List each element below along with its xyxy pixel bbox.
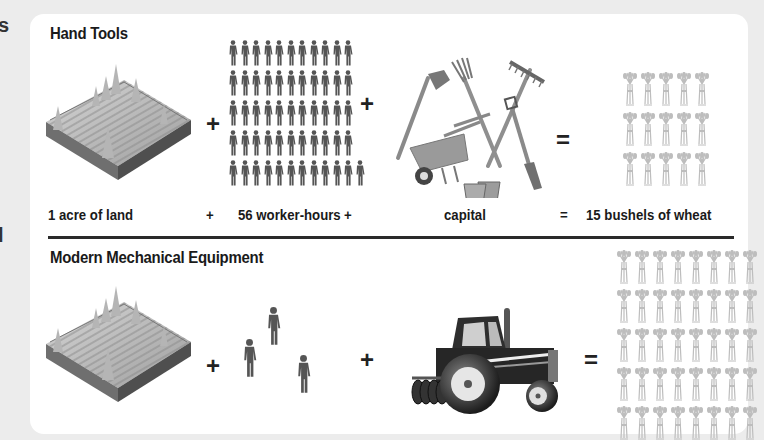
worker-figure-icon [309,160,321,186]
worker-figure-icon [332,100,344,126]
worker-figure-icon [263,160,275,186]
buckets-icon [464,182,500,198]
wheat-bundle-icon [670,328,688,362]
wheat-bundle-icon [652,367,670,401]
worker-figure-icon [343,40,355,66]
wheat-bundle-icon [724,328,742,362]
modern-equipment-title: Modern Mechanical Equipment [50,248,263,268]
land-plot-icon [46,54,191,184]
wheat-bundle-icon [724,289,742,323]
wheat-bundle-icon [688,367,706,401]
wheat-bundle-icon [652,289,670,323]
worker-figure-icon [266,306,281,346]
wheat-bundle-icon [706,328,724,362]
worker-figure-icon [228,70,240,96]
worker-figure-icon [251,40,263,66]
wheat-bundle-icon [742,289,760,323]
worker-figure-icon [274,70,286,96]
wheat-bundle-icon [616,367,634,401]
wheat-bundle-icon [706,250,724,284]
worker-figure-icon [240,70,252,96]
plus-operator: + [206,354,220,378]
worker-figure-icon [320,70,332,96]
plus-operator: + [360,92,374,116]
wheat-bundle-icon [706,406,724,440]
worker-figure-icon [263,70,275,96]
worker-figure-icon [296,354,311,394]
wheat-bundle-icon [652,250,670,284]
wheat-bundle-icon [640,152,658,186]
worker-figure-icon [309,130,321,156]
plus-caption: + [206,206,214,223]
wheat-bundle-icon [694,152,712,186]
wheat-bundle-icon [616,328,634,362]
wheat-bundle-icon [634,289,652,323]
diagram-card: Hand Tools [30,14,748,434]
wheat-bundle-icon [706,289,724,323]
worker-figure-icon [297,160,309,186]
worker-figure-icon [343,100,355,126]
worker-figure-icon [309,70,321,96]
wheat-bundle-icon [670,250,688,284]
worker-figure-icon [251,100,263,126]
worker-figure-icon [263,40,275,66]
wheat-bundle-icon [676,152,694,186]
cropped-edge-text: s [0,14,9,37]
equals-caption: = [560,206,568,223]
worker-figure-icon [274,100,286,126]
wheat-bundle-icon [688,328,706,362]
plus-operator: + [206,112,220,136]
worker-figure-icon [251,70,263,96]
worker-figure-icon [309,100,321,126]
worker-figure-icon [251,160,263,186]
wheat-bundle-icon [676,112,694,146]
worker-figure-icon [251,130,263,156]
wheat-bundle-icon [634,367,652,401]
wheat-bundle-icon [616,289,634,323]
wheat-bundle-icon [634,250,652,284]
hand-tools-title: Hand Tools [50,24,128,44]
wheat-bundle-icon [658,72,676,106]
worker-figure-icon [332,160,344,186]
worker-figure-icon [274,130,286,156]
worker-figure-icon [320,130,332,156]
worker-figure-icon [332,130,344,156]
wheat-bundle-icon [706,367,724,401]
wheat-bundle-icon [658,152,676,186]
worker-figure-icon [320,100,332,126]
wheat-bundle-icon [688,289,706,323]
worker-figure-icon [286,100,298,126]
land-plot-icon [46,276,191,406]
wheat-bundle-icon [652,406,670,440]
wheat-bundle-icon [670,406,688,440]
worker-figure-icon [286,130,298,156]
wheat-bundle-icon [676,72,694,106]
wheat-bundle-icon [616,250,634,284]
wheat-bundles [616,250,760,440]
wheat-bundle-icon [742,328,760,362]
labor-caption: 56 worker-hours [238,206,341,223]
worker-figure-icon [286,70,298,96]
plus-operator: + [360,348,374,372]
wheat-bundle-icon [640,112,658,146]
rake-icon [488,62,544,166]
worker-figure-icon [297,40,309,66]
worker-figure-icon [332,70,344,96]
cropped-edge-text: l [0,224,4,247]
tractor-illustration [408,306,568,420]
worker-figure-icon [228,100,240,126]
capital-caption: capital [444,206,486,223]
worker-figure-icon [263,130,275,156]
worker-figure-icon [309,40,321,66]
worker-figure-icon [332,40,344,66]
wheat-bundle-icon [694,112,712,146]
hand-tools-illustration [384,48,554,202]
section-divider [48,236,734,239]
wheat-bundles [622,72,712,186]
output-caption: 15 bushels of wheat [586,206,711,223]
wheat-bundle-icon [724,367,742,401]
wheat-bundle-icon [622,72,640,106]
equals-operator: = [584,348,598,372]
worker-figure-icon [240,100,252,126]
wheelbarrow-icon [410,114,490,185]
